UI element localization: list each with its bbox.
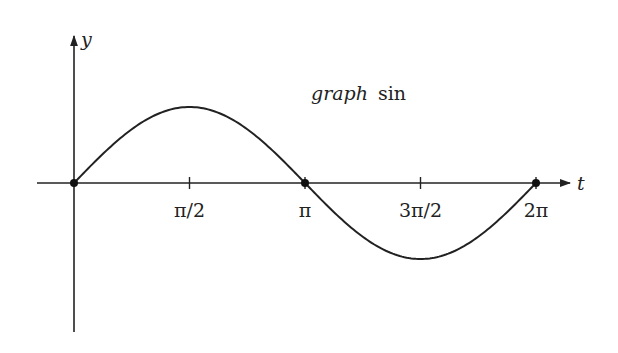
x-tick-label: 3π/2 [399,199,442,221]
x-tick-label: 2π [524,199,549,221]
x-tick-label: π/2 [174,199,205,221]
zero-point-marker [70,179,78,187]
zero-point-marker [301,179,309,187]
y-axis-label: y [80,28,92,50]
zero-point-marker [532,179,540,187]
sine-chart: t y π/2π3π/22π graph sin [0,0,618,353]
title-italic: graph [311,82,368,104]
x-axis-label: t [577,172,585,194]
title-roman: sin [378,82,406,104]
chart-title: graph sin [311,82,406,104]
x-tick-label: π [299,199,312,221]
